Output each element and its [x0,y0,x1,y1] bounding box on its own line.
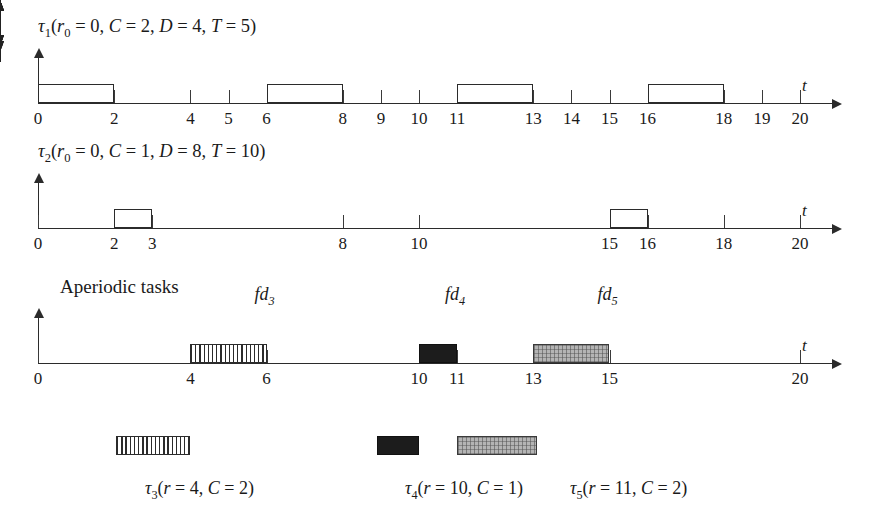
tau2-tick [800,215,801,228]
tau1-tick-label: 5 [224,110,233,127]
aperiodic-axis [38,363,832,364]
tau2-tick-label: 10 [411,235,428,252]
tau1-tick-label: 20 [792,110,809,127]
tau1-tick [343,90,344,103]
tau1-exec-block [38,84,114,103]
aperiodic-tick-label: 0 [34,370,43,387]
aperiodic-tick [457,350,458,363]
tau2-tick-label: 15 [601,235,618,252]
tau1-title: τ1(r0 = 0, C = 2, D = 4, T = 5) [38,17,256,39]
tau3-arrival-block [116,436,190,455]
tau1-tick [762,90,763,103]
tau1-tick-label: 4 [186,110,195,127]
tau1-tick-label: 19 [753,110,770,127]
tau1-tick-label: 11 [449,110,465,127]
aperiodic-fd-label: fd5 [598,285,618,307]
tau2-tick [343,215,344,228]
tau1-tick [533,90,534,103]
aperiodic-tick-label: 20 [792,370,809,387]
tau5-arrival-block [457,436,537,455]
aperiodic-tick [610,350,611,363]
tau2-tick [38,215,39,228]
aperiodic-vaxis-arrowhead [34,308,44,318]
aperiodic-tick-label: 6 [262,370,271,387]
aperiodic-tick [38,350,39,363]
tau1-tick [419,90,420,103]
tau1-tick [381,90,382,103]
tau2-tick-label: 3 [148,235,157,252]
tau1-tick-label: 10 [411,110,428,127]
tau1-axis-label: t [802,77,807,94]
aperiodic-tick [800,350,801,363]
tau1-tick-label: 13 [525,110,542,127]
tau1-axis-arrowhead [832,99,842,109]
aperiodic-exec-block [419,344,457,363]
tau2-exec-block [114,209,152,228]
tau4-arrival-label: τ4(r = 10, C = 1) [405,479,523,501]
figure-canvas: τ1(r0 = 0, C = 2, D = 4, T = 5)t02456891… [0,0,870,521]
aperiodic-title: Aperiodic tasks [60,277,179,296]
tau1-tick-label: 8 [339,110,348,127]
tau1-tick [724,90,725,103]
tau2-tick [648,215,649,228]
tau1-tick-label: 14 [563,110,580,127]
tau1-tick [800,90,801,103]
tau1-tick-label: 9 [377,110,386,127]
tau2-title: τ2(r0 = 0, C = 1, D = 8, T = 10) [38,142,266,164]
aperiodic-fd-label: fd4 [445,285,465,307]
tau1-tick [190,90,191,103]
tau2-tick-label: 2 [110,235,119,252]
aperiodic-axis-arrowhead [832,359,842,369]
tau2-axis-arrowhead [832,224,842,234]
aperiodic-tick [267,350,268,363]
tau1-tick-label: 18 [715,110,732,127]
tau5-arrival-label: τ5(r = 11, C = 2) [570,479,687,501]
tau1-exec-block [648,84,724,103]
tau2-axis-label: t [802,202,807,219]
aperiodic-tick-label: 13 [525,370,542,387]
tau1-exec-block [457,84,533,103]
tau1-tick-label: 2 [110,110,119,127]
tau2-tick-label: 20 [792,235,809,252]
tau2-axis [38,228,832,229]
tau2-tick [152,215,153,228]
tau2-tick-label: 0 [34,235,43,252]
tau2-tick-label: 18 [715,235,732,252]
tau1-vaxis-arrowhead [34,48,44,58]
tau1-tick [571,90,572,103]
aperiodic-fd-label: fd3 [255,285,275,307]
tau1-tick [114,90,115,103]
tau2-tick [724,215,725,228]
tau1-axis [38,103,832,104]
tau1-tick-label: 15 [601,110,618,127]
tau1-tick [229,90,230,103]
aperiodic-tick-label: 11 [449,370,465,387]
aperiodic-exec-block [190,344,266,363]
tau1-tick [610,90,611,103]
tau2-exec-block [610,209,648,228]
tau1-tick-label: 6 [262,110,271,127]
tau3-arrival-label: τ3(r = 4, C = 2) [145,479,254,501]
aperiodic-tick-label: 4 [186,370,195,387]
aperiodic-tick-label: 10 [411,370,428,387]
aperiodic-tick-label: 15 [601,370,618,387]
tau2-tick-label: 8 [339,235,348,252]
tau1-exec-block [267,84,343,103]
aperiodic-exec-block [533,344,609,363]
tau2-tick [419,215,420,228]
tau1-tick-label: 0 [34,110,43,127]
arrow-head-up [0,0,4,11]
tau1-tick-label: 16 [639,110,656,127]
tau4-arrival-block [377,436,419,455]
aperiodic-axis-label: t [802,337,807,354]
tau2-tick-label: 16 [639,235,656,252]
tau2-vaxis-arrowhead [34,173,44,183]
